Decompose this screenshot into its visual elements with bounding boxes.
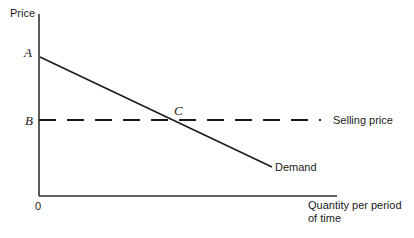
x-axis-label-line1: Quantity per period: [308, 199, 402, 212]
demand-curve: [40, 57, 272, 167]
origin-label: 0: [35, 201, 41, 212]
demand-curve-label: Demand: [275, 161, 317, 173]
point-label-b: B: [25, 114, 33, 127]
x-axis-label-line2: of time: [308, 212, 341, 225]
y-axis-label: Price: [10, 7, 35, 20]
demand-selling-price-chart: Price A B C Demand Selling price 0 Quant…: [0, 0, 414, 238]
point-label-c: C: [174, 104, 183, 117]
selling-price-label: Selling price: [333, 114, 393, 126]
point-label-a: A: [24, 46, 32, 59]
